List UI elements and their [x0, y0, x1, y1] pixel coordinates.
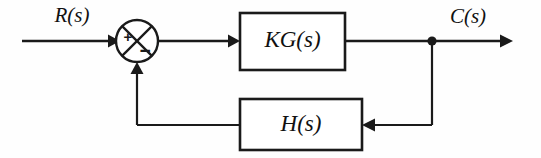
output-arrowhead [500, 35, 513, 48]
feedback-block-input-arrowhead [362, 119, 375, 132]
summing-junction-plus-sign: + [124, 28, 133, 45]
block-diagram-svg: + − KG(s) H(s) R(s) C(s) [0, 0, 541, 158]
input-signal-label: R(s) [54, 3, 90, 27]
forward-path-block-label: KG(s) [263, 27, 320, 52]
summing-junction-minus-sign: − [139, 40, 150, 61]
summing-junction-feedback-arrowhead [131, 62, 144, 74]
output-signal-label: C(s) [450, 4, 486, 28]
block-diagram-canvas: + − KG(s) H(s) R(s) C(s) [0, 0, 541, 158]
forward-block-input-arrowhead [228, 35, 240, 48]
feedback-path-block-label: H(s) [280, 111, 322, 136]
